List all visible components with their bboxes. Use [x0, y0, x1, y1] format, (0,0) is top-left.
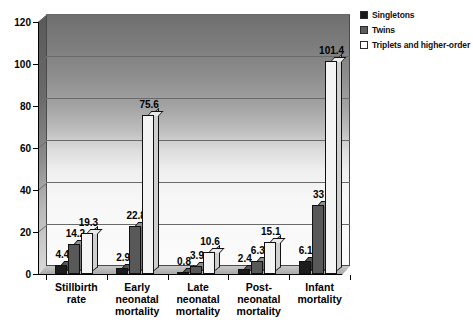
bar-face: [203, 252, 215, 274]
bar-value-label: 10.6: [197, 236, 223, 247]
bar-face: [142, 115, 154, 274]
bar-singletons: [177, 272, 189, 274]
legend-item-singletons: Singletons: [360, 10, 472, 20]
bar-face: [238, 269, 250, 274]
bar-triplets-and-higher-order: [203, 252, 215, 274]
plot-area: 4.414.219.32.922.875.60.83.910.62.46.315…: [38, 14, 350, 274]
legend-item-triplets: Triplets and higher-order: [360, 40, 472, 50]
y-axis-tick-label: 60: [20, 143, 31, 154]
y-axis-tick-label: 40: [20, 185, 31, 196]
legend-swatch-icon-singletons: [360, 11, 368, 19]
legend-swatch-icon-triplets: [360, 41, 368, 49]
bar-face: [312, 205, 324, 274]
x-axis-tick-mark: [107, 275, 108, 280]
bar-twins: [251, 261, 263, 274]
bar-side: [154, 108, 159, 271]
legend-swatch-icon-twins: [360, 26, 368, 34]
bar-triplets-and-higher-order: [325, 61, 337, 274]
bar-twins: [312, 205, 324, 274]
y-axis-tick-label: 120: [14, 17, 31, 28]
bar-value-label: 15.1: [258, 226, 284, 237]
bar-face: [81, 233, 93, 274]
bar-face: [190, 266, 202, 274]
x-axis-tick-mark: [350, 275, 351, 280]
bar-chart: Singletons Twins Triplets and higher-ord…: [0, 0, 473, 333]
bar-face: [325, 61, 337, 274]
x-axis-tick-mark: [228, 275, 229, 280]
legend-label-triplets: Triplets and higher-order: [372, 40, 470, 50]
bars-layer: 4.414.219.32.922.875.60.83.910.62.46.315…: [38, 14, 350, 275]
legend-item-twins: Twins: [360, 25, 472, 35]
bar-face: [129, 226, 141, 274]
chart-legend: Singletons Twins Triplets and higher-ord…: [360, 10, 472, 55]
x-axis-tick-mark: [46, 275, 47, 280]
x-axis-tick-mark: [289, 275, 290, 280]
bar-face: [116, 268, 128, 274]
y-axis-tick-label: 20: [20, 227, 31, 238]
bar-singletons: [116, 268, 128, 274]
y-axis: 120100806040200: [0, 14, 40, 274]
bar-singletons: [55, 265, 67, 274]
bar-singletons: [238, 269, 250, 274]
x-axis-tick-mark: [168, 275, 169, 280]
bar-twins: [190, 266, 202, 274]
bar-triplets-and-higher-order: [81, 233, 93, 274]
bar-side: [337, 54, 342, 271]
x-axis-labels: Stillbirth rateEarly neonatal mortalityL…: [38, 281, 350, 331]
bar-value-label: 101.4: [319, 45, 345, 56]
bar-face: [55, 265, 67, 274]
y-axis-tick-label: 80: [20, 101, 31, 112]
bar-triplets-and-higher-order: [142, 115, 154, 274]
bar-singletons: [299, 261, 311, 274]
bar-value-label: 75.6: [136, 99, 162, 110]
bar-twins: [129, 226, 141, 274]
bar-face: [299, 261, 311, 274]
y-axis-tick-label: 100: [14, 59, 31, 70]
bar-face: [68, 244, 80, 274]
bar-value-label: 19.3: [75, 217, 101, 228]
bar-face: [251, 261, 263, 274]
bar-triplets-and-higher-order: [264, 242, 276, 274]
bar-twins: [68, 244, 80, 274]
legend-label-twins: Twins: [372, 25, 395, 35]
legend-label-singletons: Singletons: [372, 10, 414, 20]
y-axis-tick-label: 0: [25, 269, 31, 280]
bar-face: [264, 242, 276, 274]
bar-face: [177, 272, 189, 274]
x-axis-category-label: Infant mortality: [283, 281, 356, 305]
